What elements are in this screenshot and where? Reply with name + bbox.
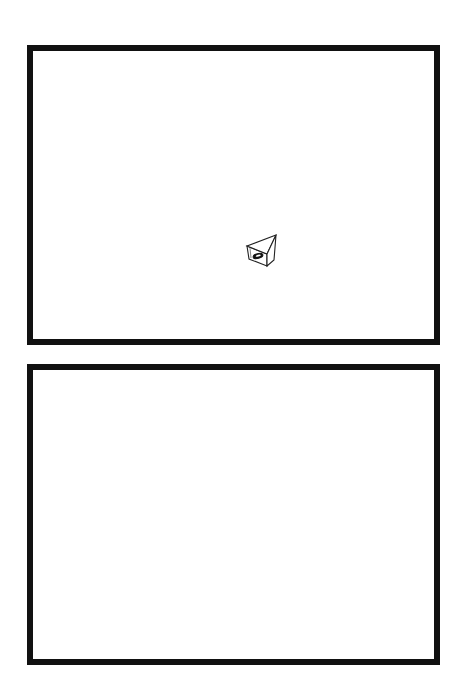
bottom-viewport-panel[interactable]: Empty viewport (27, 364, 440, 665)
triangular-prism-block-icon[interactable] (243, 232, 279, 268)
top-viewport-panel[interactable]: 3D viewport (27, 45, 440, 345)
